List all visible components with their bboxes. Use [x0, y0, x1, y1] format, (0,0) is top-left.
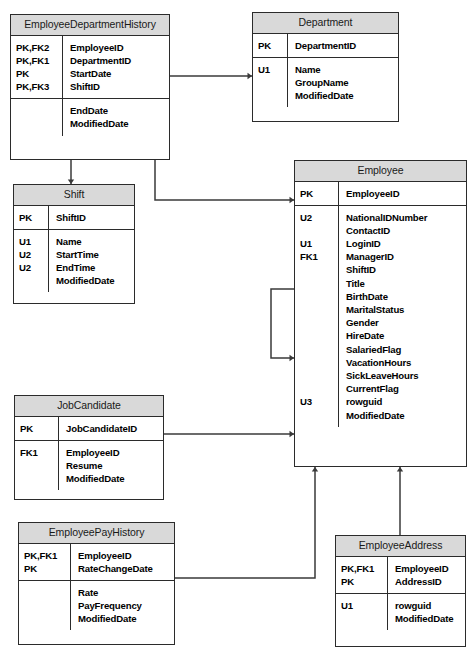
- attribute-block: U2 U1FK1 U3 NationalIDNumberContactIDLog…: [295, 205, 466, 427]
- attribute-column: EndDateModifiedDate: [63, 99, 169, 135]
- attribute-name: Resume: [66, 459, 160, 472]
- key-label: PK: [16, 67, 59, 80]
- key-label: PK: [341, 575, 384, 588]
- entity-employee[interactable]: EmployeePKEmployeeIDU2 U1FK1 U3 National…: [294, 160, 467, 467]
- attribute-block: U1U2U2 NameStartTimeEndTimeModifiedDate: [14, 229, 134, 293]
- key-label: U1: [341, 599, 384, 612]
- key-label-empty: [300, 409, 335, 422]
- key-column: PK,FK1PK: [336, 557, 388, 593]
- key-column: U1U2U2: [14, 230, 49, 293]
- attribute-column: DepartmentID: [288, 34, 398, 57]
- entity-job_candidate[interactable]: JobCandidatePKJobCandidateIDFK1 Employee…: [14, 395, 164, 500]
- key-label-empty: [24, 599, 67, 612]
- attribute-column: EmployeeIDDepartmentIDStartDateShiftID: [63, 36, 169, 99]
- entity-department[interactable]: DepartmentPKDepartmentIDU1 NameGroupName…: [252, 12, 399, 122]
- attribute-name: RateChangeDate: [78, 562, 171, 575]
- key-label: PK,FK1: [341, 562, 384, 575]
- entity-employee_pay_history[interactable]: EmployeePayHistoryPK,FK1PKEmployeeIDRate…: [18, 522, 175, 645]
- attribute-column: EmployeeIDResumeModifiedDate: [59, 441, 163, 491]
- key-column: PK,FK1PK: [19, 544, 71, 580]
- attribute-name: BirthDate: [346, 290, 463, 303]
- key-label: U3: [300, 395, 335, 408]
- entity-employee_department_history[interactable]: EmployeeDepartmentHistoryPK,FK2PK,FK1PKP…: [10, 14, 170, 160]
- attribute-name: StartDate: [70, 67, 166, 80]
- attribute-name: ManagerID: [346, 250, 463, 263]
- key-label-empty: [300, 329, 335, 342]
- attribute-name: EmployeeID: [78, 549, 171, 562]
- attribute-column: JobCandidateID: [59, 417, 163, 440]
- key-label-empty: [258, 76, 284, 89]
- attribute-name: DepartmentID: [295, 39, 395, 52]
- attribute-name: ModifiedDate: [295, 89, 395, 102]
- attribute-name: rowguid: [346, 395, 463, 408]
- attribute-column: ShiftID: [49, 206, 134, 229]
- attribute-name: VacationHours: [346, 356, 463, 369]
- key-column: [19, 581, 71, 631]
- relationship-line-edh-to-employee: [155, 160, 294, 200]
- attribute-name: ShiftID: [346, 263, 463, 276]
- key-label-empty: [300, 343, 335, 356]
- primary-key-block: PKDepartmentID: [253, 34, 398, 57]
- primary-key-block: PK,FK1PKEmployeeIDRateChangeDate: [19, 544, 174, 580]
- attribute-block: U1 NameGroupNameModifiedDate: [253, 57, 398, 108]
- attribute-name: ShiftID: [70, 80, 166, 93]
- key-label-empty: [19, 274, 45, 287]
- key-label-empty: [300, 277, 335, 290]
- key-label-empty: [300, 224, 335, 237]
- key-label: PK: [19, 211, 45, 224]
- key-label: U2: [19, 248, 45, 261]
- attribute-name: NationalIDNumber: [346, 211, 463, 224]
- attribute-column: RatePayFrequencyModifiedDate: [71, 581, 174, 631]
- attribute-name: EmployeeID: [70, 41, 166, 54]
- attribute-column: NationalIDNumberContactIDLoginIDManagerI…: [339, 206, 466, 427]
- key-label-empty: [300, 290, 335, 303]
- key-label: FK1: [300, 250, 335, 263]
- attribute-name: EmployeeID: [395, 562, 462, 575]
- attribute-name: ModifiedDate: [70, 117, 166, 130]
- attribute-name: ModifiedDate: [395, 612, 462, 625]
- key-label-empty: [341, 612, 384, 625]
- attribute-name: HireDate: [346, 329, 463, 342]
- key-label: U1: [258, 63, 284, 76]
- attribute-name: SickLeaveHours: [346, 369, 463, 382]
- attribute-column: rowguidModifiedDate: [388, 594, 465, 630]
- attribute-column: NameGroupNameModifiedDate: [288, 58, 398, 108]
- key-label-empty: [300, 303, 335, 316]
- attribute-name: GroupName: [295, 76, 395, 89]
- entity-title: EmployeePayHistory: [19, 523, 174, 544]
- er-diagram-canvas: EmployeeDepartmentHistoryPK,FK2PK,FK1PKP…: [0, 0, 472, 657]
- key-label: PK,FK1: [24, 549, 67, 562]
- attribute-name: ModifiedDate: [78, 612, 171, 625]
- attribute-block: U1 rowguidModifiedDate: [336, 593, 465, 630]
- key-label: U2: [300, 211, 335, 224]
- key-label-empty: [300, 356, 335, 369]
- attribute-block: EndDateModifiedDate: [11, 98, 169, 135]
- attribute-name: LoginID: [346, 237, 463, 250]
- attribute-block: FK1 EmployeeIDResumeModifiedDate: [15, 440, 163, 491]
- key-label: PK,FK2: [16, 41, 59, 54]
- key-column: PK: [253, 34, 288, 57]
- key-label-empty: [258, 89, 284, 102]
- key-column: U1: [253, 58, 288, 108]
- primary-key-block: PKEmployeeID: [295, 182, 466, 205]
- key-column: PK,FK2PK,FK1PKPK,FK3: [11, 36, 63, 99]
- key-label-empty: [16, 117, 59, 130]
- attribute-name: AddressID: [395, 575, 462, 588]
- key-label-empty: [24, 612, 67, 625]
- attribute-name: PayFrequency: [78, 599, 171, 612]
- attribute-name: EmployeeID: [346, 187, 463, 200]
- relationship-arrowhead-payhistory-to-employee: [312, 467, 318, 472]
- key-label: U2: [19, 261, 45, 274]
- attribute-name: Title: [346, 277, 463, 290]
- key-label: U1: [19, 235, 45, 248]
- entity-employee_address[interactable]: EmployeeAddressPK,FK1PKEmployeeIDAddress…: [335, 535, 466, 647]
- attribute-column: EmployeeID: [339, 182, 466, 205]
- attribute-name: CurrentFlag: [346, 382, 463, 395]
- attribute-name: ModifiedDate: [346, 409, 463, 422]
- primary-key-block: PK,FK1PKEmployeeIDAddressID: [336, 557, 465, 593]
- key-label-empty: [300, 382, 335, 395]
- attribute-name: SalariedFlag: [346, 343, 463, 356]
- attribute-name: Gender: [346, 316, 463, 329]
- entity-shift[interactable]: ShiftPKShiftIDU1U2U2 NameStartTimeEndTim…: [13, 184, 135, 304]
- primary-key-block: PKShiftID: [14, 206, 134, 229]
